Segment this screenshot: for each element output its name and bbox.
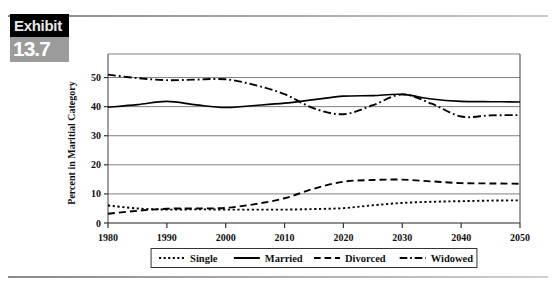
y-axis-title: Percent in Maritial Category (66, 81, 77, 204)
legend-label: Divorced (345, 253, 386, 264)
chart-svg: 01020304050 1980199020002010202020302040… (62, 14, 532, 276)
series-line-single (108, 200, 520, 209)
y-tick-label: 30 (91, 130, 101, 141)
x-tick-label: 1980 (98, 232, 118, 243)
series-line-widowed (108, 75, 520, 118)
exhibit-label: Exhibit (14, 16, 62, 35)
x-tick-label: 2050 (510, 232, 530, 243)
series-line-married (108, 94, 520, 107)
legend-label: Widowed (431, 253, 474, 264)
data-series-layer (108, 75, 520, 214)
exhibit-badge: Exhibit 13.7 (10, 14, 69, 62)
exhibit-number: 13.7 (13, 36, 50, 61)
legend-label: Married (265, 253, 303, 264)
series-line-divorced (108, 180, 520, 214)
marital-status-line-chart: 01020304050 1980199020002010202020302040… (62, 14, 532, 276)
y-tick-label: 40 (91, 101, 101, 112)
y-tick-label: 0 (96, 218, 101, 229)
chart-legend: SingleMarriedDivorcedWidowed (151, 249, 477, 268)
y-axis-title-text: Percent in Maritial Category (66, 81, 77, 204)
x-tick-label: 1990 (157, 232, 177, 243)
x-tick-label: 2020 (333, 232, 353, 243)
legend-label: Single (190, 253, 218, 264)
y-tick-label: 20 (91, 159, 101, 170)
y-tick-label: 10 (91, 188, 101, 199)
y-tick-label: 50 (91, 72, 101, 83)
x-tick-label: 2010 (275, 232, 295, 243)
x-tick-label: 2000 (216, 232, 236, 243)
x-axis-ticks: 19801990200020102020203020402050 (98, 223, 530, 243)
x-tick-label: 2030 (392, 232, 412, 243)
y-axis-ticks: 01020304050 (91, 72, 108, 228)
exhibit-page: Exhibit 13.7 01020304050 198019902000201… (0, 0, 557, 285)
bottom-divider-rule (8, 276, 548, 278)
x-tick-label: 2040 (451, 232, 471, 243)
plot-frame (108, 54, 520, 223)
